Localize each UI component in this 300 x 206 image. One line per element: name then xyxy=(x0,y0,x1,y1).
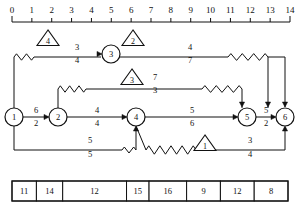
edge-label-e-5-6-below: 2 xyxy=(264,118,268,128)
edge-label-e-1-2-above: 6 xyxy=(34,105,38,115)
arrow-top-into-node6 xyxy=(282,102,287,107)
float-triangle-label-t3: 3 xyxy=(130,76,134,85)
edge-label-e-mid-above: 7 xyxy=(153,72,157,82)
node-label-n6: 6 xyxy=(283,112,287,122)
edge-label-e-bottom-right-above: 3 xyxy=(248,135,252,145)
edge-label-e-bottom-left-above: 5 xyxy=(88,135,92,145)
spring-bottom-mid xyxy=(146,146,196,154)
duration-cell-label-6: 12 xyxy=(233,186,242,196)
ruler-tick-label-13: 13 xyxy=(266,5,276,15)
duration-bar-row: 11141215169128 xyxy=(12,181,288,201)
edge-label-e-top-right-below: 7 xyxy=(188,55,192,65)
arrow-top-left xyxy=(97,51,102,56)
duration-cell-label-2: 12 xyxy=(90,186,99,196)
edge-label-e-1-2-below: 2 xyxy=(34,118,38,128)
ruler-tick-label-2: 2 xyxy=(49,5,54,15)
edge-label-e-2-4-above: 4 xyxy=(95,105,100,115)
edge-lines xyxy=(14,57,285,150)
ruler-tick-label-3: 3 xyxy=(69,5,74,15)
node-label-n1: 1 xyxy=(12,112,16,122)
diagram-root: 01234567891011121314 624456523447735534 … xyxy=(0,0,300,206)
edge-label-e-2-4-below: 4 xyxy=(95,118,100,128)
ruler-tick-label-1: 1 xyxy=(30,5,35,15)
ruler-tick-label-9: 9 xyxy=(188,5,193,15)
arrow-mid-into-node5 xyxy=(239,102,244,107)
duration-cell-label-3: 15 xyxy=(134,186,143,196)
float-triangle-label-t2: 2 xyxy=(131,37,135,46)
ruler-tick-label-7: 7 xyxy=(149,5,154,15)
duration-cell-label-0: 11 xyxy=(20,186,28,196)
arrow-4-5 xyxy=(233,114,238,119)
ruler-tick-label-12: 12 xyxy=(246,5,255,15)
edge-label-e-mid-below: 3 xyxy=(153,85,157,95)
ruler-tick-label-11: 11 xyxy=(226,5,235,15)
spring-mid-right xyxy=(202,86,242,93)
ruler-tick-label-0: 0 xyxy=(10,5,15,15)
ruler-tick-label-6: 6 xyxy=(129,5,134,15)
ruler-tick-label-5: 5 xyxy=(109,5,114,15)
spring-bottom-left xyxy=(122,147,136,153)
duration-cell-label-1: 14 xyxy=(45,186,54,196)
arrow-bottom-into-node6 xyxy=(282,126,287,131)
float-triangle-label-t1: 1 xyxy=(203,142,207,151)
edge-label-e-5-6-above: 5 xyxy=(264,105,268,115)
edge-label-e-top-right-above: 4 xyxy=(188,42,193,52)
edge-label-e-4-5-above: 5 xyxy=(190,105,194,115)
duration-cell-label-5: 9 xyxy=(201,186,205,196)
ruler-tick-label-8: 8 xyxy=(169,5,174,15)
float-triangle-label-t4: 4 xyxy=(46,37,50,46)
duration-cell-label-4: 16 xyxy=(164,186,173,196)
arrow-bottom-into-node4 xyxy=(133,126,138,131)
network-diagram-canvas: 01234567891011121314 624456523447735534 … xyxy=(0,0,300,206)
arrow-2-4 xyxy=(122,114,127,119)
spring-top-right xyxy=(228,54,268,61)
spring-mid-left xyxy=(58,86,86,92)
arrow-5-6 xyxy=(271,114,276,119)
ruler-tick-label-10: 10 xyxy=(206,5,216,15)
edge-label-e-top-left-above: 3 xyxy=(75,42,79,52)
edge-label-e-bottom-left-below: 5 xyxy=(88,149,92,159)
ruler-tick-label-4: 4 xyxy=(89,5,94,15)
node-label-n3: 3 xyxy=(109,49,113,59)
node-label-n2: 2 xyxy=(56,112,60,122)
spring-top-left xyxy=(14,54,34,60)
arrow-1-2 xyxy=(44,114,49,119)
edge-label-e-4-5-below: 6 xyxy=(190,118,194,128)
time-ruler: 01234567891011121314 xyxy=(10,5,295,22)
ruler-tick-label-14: 14 xyxy=(286,5,296,15)
edge-labels: 624456523447735534 xyxy=(34,42,268,159)
node-label-n5: 5 xyxy=(245,112,249,122)
duration-cell-label-7: 8 xyxy=(269,186,273,196)
